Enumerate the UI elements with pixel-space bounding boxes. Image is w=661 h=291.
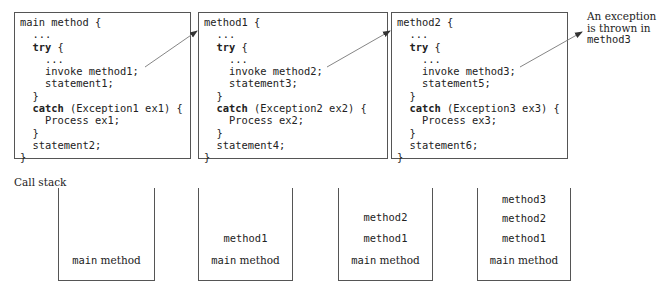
frame-mono: method2 [364, 211, 408, 223]
frame-mono: main [72, 254, 97, 266]
frame-mono: main [490, 254, 515, 266]
stack-frame-method2: method2 [339, 211, 432, 223]
stack-frame-method3: method3 [478, 193, 570, 205]
frame-serif: method [515, 254, 559, 266]
frame-mono: main [351, 254, 376, 266]
call-stack-2: method1 main method [198, 188, 293, 281]
stack-frame-method1: method1 [199, 232, 292, 244]
frame-mono: method1 [502, 232, 546, 244]
stack-frame-method2: method2 [478, 212, 570, 224]
call-stack-1: main method [58, 188, 155, 281]
stack-frame-main: main method [59, 254, 154, 266]
call-stack-label: Call stack [14, 176, 66, 188]
frame-mono: method1 [224, 232, 268, 244]
arrow-main-to-method1 [145, 31, 197, 67]
stack-frame-main: main method [478, 254, 570, 266]
call-stack-4: method3 method2 method1 main method [477, 188, 571, 281]
stack-frame-method1: method1 [478, 232, 570, 244]
frame-mono: method3 [502, 193, 546, 205]
frame-serif: method [97, 254, 141, 266]
frame-mono: main [211, 254, 236, 266]
arrow-method1-to-method2 [327, 31, 390, 67]
frame-mono: method1 [364, 232, 408, 244]
stack-frame-main: main method [339, 254, 432, 266]
frame-serif: method [376, 254, 420, 266]
frame-serif: method [236, 254, 280, 266]
stack-frame-method1: method1 [339, 232, 432, 244]
call-stack-3: method2 method1 main method [338, 188, 433, 281]
stack-frame-main: main method [199, 254, 292, 266]
arrow-method2-to-exception [520, 32, 582, 67]
frame-mono: method2 [502, 212, 546, 224]
